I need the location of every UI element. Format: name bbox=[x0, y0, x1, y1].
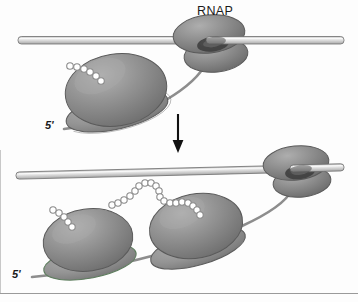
figure-canvas bbox=[0, 0, 358, 302]
five-prime-label-top: 5' bbox=[45, 119, 54, 131]
top-panel bbox=[18, 11, 344, 140]
dna-strand-top-right bbox=[206, 37, 344, 45]
bottom-panel bbox=[16, 143, 344, 287]
dna-strand-bottom-left bbox=[16, 165, 298, 179]
transcription-translation-figure: RNAP 5' 5' bbox=[0, 0, 358, 302]
progression-arrow bbox=[173, 114, 184, 153]
five-prime-label-bottom: 5' bbox=[12, 268, 21, 280]
rnap-label: RNAP bbox=[197, 4, 233, 18]
